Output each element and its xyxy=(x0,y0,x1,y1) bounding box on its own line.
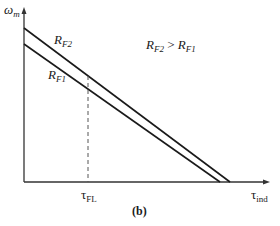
curve-rf1 xyxy=(24,44,220,182)
full-load-torque-label: τFL xyxy=(81,188,97,201)
y-axis-label: ωm xyxy=(4,3,20,16)
curve-rf2-label: RF2 xyxy=(54,33,72,46)
resistance-annotation: RF2 > RF1 xyxy=(146,38,196,51)
figure-caption: (b) xyxy=(132,205,147,217)
curve-rf2 xyxy=(24,28,230,182)
x-axis-arrow-icon xyxy=(263,180,270,185)
curve-rf1-label: RF1 xyxy=(48,68,66,81)
y-axis-arrow-icon xyxy=(22,7,27,14)
x-axis-label: τind xyxy=(251,188,268,201)
speed-torque-diagram xyxy=(0,0,280,226)
